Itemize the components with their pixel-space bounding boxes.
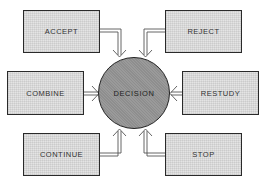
decision-node: DECISION (98, 57, 170, 129)
option-restudy-label: RESTUDY (201, 89, 240, 98)
option-reject: REJECT (165, 10, 242, 53)
option-accept-label: ACCEPT (45, 27, 78, 36)
option-stop: STOP (165, 133, 242, 176)
decision-label: DECISION (113, 89, 154, 98)
option-continue-label: CONTINUE (40, 150, 83, 159)
option-stop-label: STOP (192, 150, 214, 159)
option-accept: ACCEPT (23, 10, 100, 53)
option-restudy: RESTUDY (182, 71, 259, 115)
option-combine-label: COMBINE (26, 89, 65, 98)
option-combine: COMBINE (7, 71, 84, 115)
option-reject-label: REJECT (187, 27, 219, 36)
option-continue: CONTINUE (23, 133, 100, 176)
